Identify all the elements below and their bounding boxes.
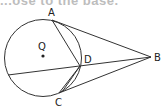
- segment-ab: [52, 20, 151, 57]
- center-point-q: [41, 54, 44, 57]
- label-a: A: [48, 7, 55, 18]
- label-b: B: [154, 52, 161, 63]
- label-c: C: [55, 97, 62, 108]
- label-q: Q: [38, 41, 46, 52]
- label-d: D: [84, 54, 92, 65]
- geometry-diagram: A B C D Q: [0, 0, 164, 110]
- circle-q: [5, 20, 82, 97]
